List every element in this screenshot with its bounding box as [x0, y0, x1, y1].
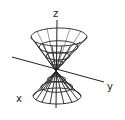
- y-axis-label: y: [107, 81, 113, 92]
- z-axis: [56, 20, 57, 108]
- z-axis-label: z: [53, 8, 58, 19]
- lower-cone: [33, 71, 81, 104]
- x-axis-label: x: [16, 93, 22, 104]
- double-cone-diagram: z y x: [0, 0, 125, 120]
